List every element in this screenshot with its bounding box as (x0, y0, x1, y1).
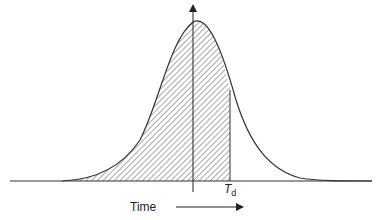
time-label: Time (130, 200, 156, 214)
diagram-canvas (0, 0, 378, 220)
shaded-area (62, 21, 230, 181)
threshold-label: Td (224, 182, 236, 198)
